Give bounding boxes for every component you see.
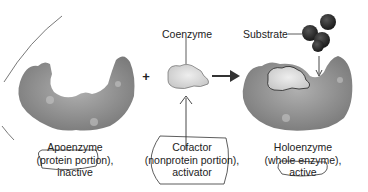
holoenzyme-label: Holoenzyme (whole enzyme), active	[260, 141, 346, 179]
cofactor-shape	[168, 64, 209, 88]
holoenzyme-name: Holoenzyme	[260, 141, 346, 154]
apoenzyme-label: Apoenzyme (protein portion), inactive	[35, 141, 115, 179]
substrate-label: Substrate	[243, 28, 288, 41]
plus-sign: +	[142, 69, 150, 84]
cofactor-state: activator	[144, 166, 240, 179]
apoenzyme-shape	[18, 56, 134, 130]
reaction-arrow	[230, 70, 240, 82]
apoenzyme-name: Apoenzyme	[35, 141, 115, 154]
cofactor-desc: (nonprotein portion),	[144, 154, 240, 167]
holoenzyme-shape	[243, 56, 353, 131]
holoenzyme-desc: (whole enzyme),	[260, 154, 346, 167]
cofactor-label: Cofactor (nonprotein portion), activator	[144, 141, 240, 179]
coenzyme-label: Coenzyme	[162, 28, 212, 41]
apoenzyme-desc: (protein portion),	[35, 154, 115, 167]
apoenzyme-state: inactive	[35, 166, 115, 179]
substrate-molecule	[302, 14, 336, 52]
holoenzyme-state: active	[260, 166, 346, 179]
binding-arrow	[316, 56, 322, 76]
annotation-stroke	[2, 126, 14, 140]
cofactor-name: Cofactor	[144, 141, 240, 154]
